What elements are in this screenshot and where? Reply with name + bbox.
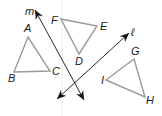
triangle-gih: [106, 59, 145, 97]
transformation-diagram: ABCFEDGIHmℓ: [0, 0, 162, 116]
vertex-label-f: F: [51, 14, 59, 26]
vertex-label-a: A: [23, 22, 31, 34]
line-label-m: m: [25, 5, 34, 17]
line-label-l: ℓ: [130, 26, 135, 38]
vertex-label-h: H: [146, 94, 154, 106]
vertex-label-b: B: [8, 72, 15, 84]
vertex-label-g: G: [131, 45, 140, 57]
vertex-label-i: I: [101, 74, 104, 86]
arrow-icon-line-m-end: [35, 10, 43, 20]
vertex-label-c: C: [52, 65, 60, 77]
vertex-label-e: E: [100, 20, 108, 32]
vertex-label-d: D: [75, 55, 83, 67]
triangle-fed: [61, 19, 97, 54]
arrow-icon-line-m-start: [76, 90, 84, 100]
line-l: [57, 33, 129, 99]
triangle-abc: [14, 37, 50, 72]
